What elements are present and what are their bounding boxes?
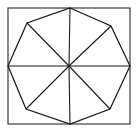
geometry-figure-container	[0, 0, 138, 132]
octagon-in-square-diagram	[0, 0, 138, 132]
